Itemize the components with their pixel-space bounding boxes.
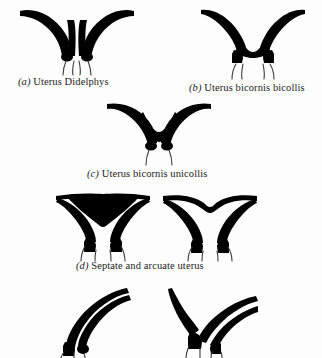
figure-page: (a) Uterus Didelphys xyxy=(0,0,322,358)
unicornuate-uterus-drawing xyxy=(55,286,131,358)
caption-d-text: (d) Septate and arcuate uterus xyxy=(76,260,204,271)
caption-label: (b) xyxy=(189,82,202,93)
caption-a-text: (a) Uterus Didelphys xyxy=(18,76,109,87)
septate-uterus-drawing xyxy=(53,190,153,262)
figure-e-unicornuate-with-rudimentary-horn xyxy=(166,286,258,358)
caption-c-text: (c) Uterus bicornis unicollis xyxy=(87,168,207,179)
figure-b-uterus-bicornis-bicollis xyxy=(198,6,308,80)
caption-figure-c: (c) Uterus bicornis unicollis xyxy=(87,168,207,180)
caption-label: (d) xyxy=(76,260,89,271)
caption-label: (a) xyxy=(18,76,31,87)
arcuate-uterus-drawing xyxy=(160,190,260,262)
caption-figure-b: (b) Uterus bicornis bicollis xyxy=(189,82,305,94)
caption-b-text: (b) Uterus bicornis bicollis xyxy=(189,82,305,93)
caption-figure-d: (d) Septate and arcuate uterus xyxy=(76,260,204,272)
caption-label: (c) xyxy=(87,168,99,179)
uterus-bicornis-bicollis-drawing xyxy=(198,6,308,80)
uterus-bicornis-unicollis-drawing xyxy=(103,100,215,166)
figure-a-uterus-didelphys xyxy=(18,6,136,76)
figure-d-arcuate-uterus xyxy=(160,190,260,262)
uterus-didelphys-drawing xyxy=(18,6,136,76)
figure-c-uterus-bicornis-unicollis xyxy=(103,100,215,166)
unicornuate-rudimentary-horn-drawing xyxy=(166,286,258,358)
figure-d-septate-uterus xyxy=(53,190,153,262)
caption-figure-a: (a) Uterus Didelphys xyxy=(18,76,109,88)
figure-e-unicornuate-uterus xyxy=(55,286,131,358)
